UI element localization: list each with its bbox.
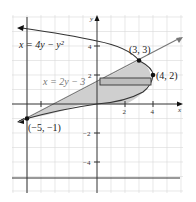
- y-axis-arrow-icon: [95, 15, 100, 21]
- y-tick-2: 2: [88, 72, 92, 80]
- y-axis-label: y: [89, 15, 94, 23]
- graph-figure: 2 4 4 2 −2 −4 x y (3, 3) (4, 2) (−5, −1)…: [0, 0, 196, 202]
- parabola-arrow-top-icon: [17, 25, 24, 31]
- y-tick-neg4: −4: [83, 159, 91, 167]
- point-neg5-neg1: [25, 116, 30, 121]
- label-point-3-3: (3, 3): [129, 44, 151, 56]
- label-point-neg5-neg1: (−5, −1): [28, 122, 61, 134]
- label-point-4-2: (4, 2): [156, 70, 178, 82]
- point-4-2: [151, 73, 156, 78]
- point-3-3: [137, 58, 142, 63]
- representative-rectangle: [100, 78, 151, 85]
- y-tick-4: 4: [88, 43, 92, 51]
- x-tick-4: 4: [151, 108, 155, 116]
- label-parabola-equation: x = 4y − y²: [18, 39, 65, 50]
- y-tick-neg2: −2: [83, 130, 91, 138]
- label-line-equation: x = 2y − 3: [42, 76, 85, 87]
- x-tick-2: 2: [123, 108, 127, 116]
